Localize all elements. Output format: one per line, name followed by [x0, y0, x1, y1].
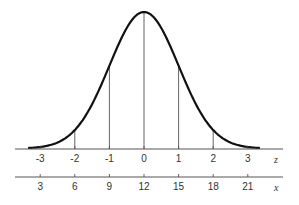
z-tick-label: -3: [36, 153, 45, 164]
z-tick-label: -1: [105, 153, 114, 164]
normal-distribution-chart: -3-2-10123 z 36912151821 x: [0, 0, 299, 205]
x-tick-label: 3: [37, 181, 43, 192]
z-axis-label: z: [273, 154, 278, 165]
x-tick-label: 9: [107, 181, 113, 192]
x-tick-label: 18: [208, 181, 220, 192]
x-tick-label: 6: [72, 181, 78, 192]
z-tick-label: 1: [176, 153, 182, 164]
x-axis-label: x: [273, 182, 279, 193]
z-axis: -3-2-10123 z: [15, 146, 283, 165]
z-reference-lines: [75, 12, 213, 149]
x-tick-label: 12: [138, 181, 150, 192]
x-axis: 36912151821 x: [15, 174, 283, 193]
z-tick-label: 2: [210, 153, 216, 164]
x-tick-label: 15: [173, 181, 185, 192]
z-tick-label: -2: [70, 153, 79, 164]
x-tick-label: 21: [242, 181, 254, 192]
z-tick-label: 0: [141, 153, 147, 164]
z-tick-label: 3: [245, 153, 251, 164]
